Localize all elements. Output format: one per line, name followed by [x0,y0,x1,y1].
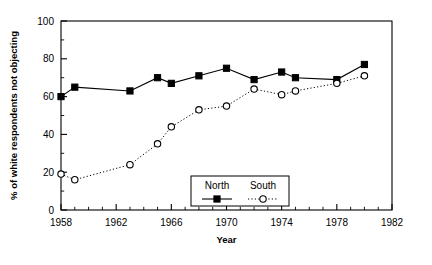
data-point [334,80,340,86]
line-chart: 1958196219661970197419781982Year02040608… [0,0,432,265]
y-tick-label: 80 [43,53,55,64]
y-tick-label: 60 [43,91,55,102]
series-line-south [61,76,364,180]
data-point [168,80,174,86]
x-tick-label: 1962 [105,217,128,228]
y-axis: 020406080100 [37,16,67,216]
series-line-north [61,64,364,96]
y-tick-label: 100 [37,16,54,27]
y-tick-label: 40 [43,129,55,140]
legend: NorthSouth [191,176,289,206]
x-tick-label: 1966 [160,217,183,228]
x-tick-label: 1982 [381,217,404,228]
data-point [127,88,133,94]
chart-figure: 1958196219661970197419781982Year02040608… [0,0,432,265]
y-tick-label: 0 [48,205,54,216]
y-tick-label: 20 [43,167,55,178]
data-point [361,61,367,67]
data-point [196,73,202,79]
x-tick-label: 1978 [326,217,349,228]
data-point [292,88,298,94]
data-point [72,84,78,90]
data-point [196,107,202,113]
x-tick-label: 1970 [215,217,238,228]
data-point [154,141,160,147]
x-tick-label: 1974 [271,217,294,228]
data-point [251,76,257,82]
data-point [72,177,78,183]
data-point [127,161,133,167]
legend-label-south: South [250,180,276,191]
x-axis: 1958196219661970197419781982 [50,204,404,228]
data-point [292,75,298,81]
data-point [58,94,64,100]
data-point [223,65,229,71]
legend-marker-south [260,196,266,202]
legend-label-north: North [205,180,229,191]
data-point [168,124,174,130]
data-point [278,92,284,98]
x-tick-label: 1958 [50,217,73,228]
legend-marker-north [214,196,220,202]
y-axis-title: % of white respondents not objecting [8,31,19,200]
data-point [279,69,285,75]
data-point [58,171,64,177]
data-point [223,103,229,109]
data-point [251,86,257,92]
data-point [154,75,160,81]
data-point [361,73,367,79]
series-north [58,61,368,99]
x-axis-title: Year [216,234,236,245]
